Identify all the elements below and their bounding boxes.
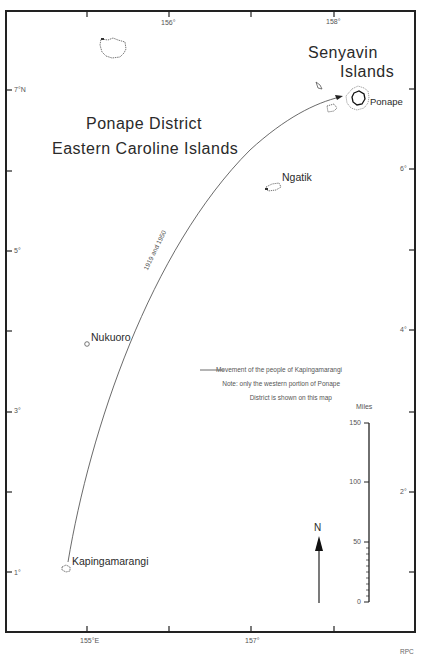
legend-note-line2: District is shown on this map — [250, 394, 332, 401]
map-graphics — [0, 0, 421, 660]
lat-label-2: 2° — [400, 488, 407, 495]
lat-label-3: 3° — [14, 407, 21, 414]
lon-label-155e: 155°E — [80, 637, 99, 644]
senyavin-label-line1: Senyavin — [308, 44, 378, 62]
island-label-kapingamarangi: Kapingamarangi — [72, 555, 148, 567]
kapingamarangi-island-shape — [62, 565, 70, 572]
route-arrowhead-icon — [335, 95, 343, 100]
map-title-district: Ponape District — [86, 115, 202, 133]
legend-note-line1: Note: only the western portion of Ponape — [222, 380, 340, 387]
scale-unit-label: Miles — [356, 403, 372, 410]
nukuoro-island-shape — [85, 342, 90, 347]
ponape-island-shape — [346, 86, 369, 110]
lon-label-156: 156° — [161, 19, 175, 26]
lat-label-5: 5° — [14, 247, 21, 254]
lon-label-158: 158° — [326, 18, 340, 25]
legend-route-text: Movement of the people of Kapingamarangi — [216, 366, 342, 373]
scale-label-50: 50 — [337, 538, 361, 545]
migration-route-line — [68, 97, 340, 562]
lat-label-7n: 7°N — [14, 86, 26, 93]
map-title-region: Eastern Caroline Islands — [52, 140, 238, 158]
islet-pakin — [327, 104, 337, 112]
lat-label-4: 4° — [400, 326, 407, 333]
lat-label-6: 6° — [400, 165, 407, 172]
island-label-nukuoro: Nukuoro — [91, 331, 131, 343]
north-arrow-label: N — [314, 522, 321, 533]
lon-label-157: 157° — [245, 637, 259, 644]
lat-label-1: 1° — [14, 569, 21, 576]
island-label-ponape: Ponape — [370, 96, 403, 107]
islet-ant — [316, 82, 322, 89]
scale-label-150: 150 — [337, 419, 361, 426]
senyavin-label-line2: Islands — [340, 63, 394, 81]
ngatik-island-shape — [266, 183, 281, 191]
scale-label-100: 100 — [337, 478, 361, 485]
map-credit: RPC — [400, 648, 414, 655]
unnamed-island-north — [100, 38, 126, 58]
island-label-ngatik: Ngatik — [282, 171, 312, 183]
scale-bar — [364, 423, 369, 602]
north-arrow-icon — [315, 536, 323, 551]
scale-label-0: 0 — [337, 598, 361, 605]
